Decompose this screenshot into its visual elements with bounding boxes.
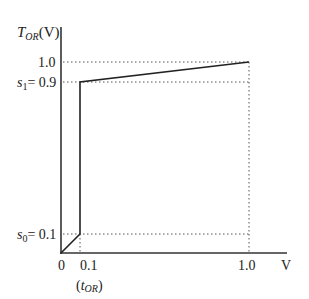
y-tick-1-0: 1.0 [38, 55, 56, 70]
guide-lines [63, 62, 249, 252]
t-or-annotation: (tOR) [76, 278, 103, 294]
x-tick-0-1: 0.1 [80, 258, 98, 273]
y-tick-s0: s0= 0.1 [17, 227, 56, 244]
x-tick-0: 0 [58, 258, 65, 273]
y-axis-title: TOR(V) [17, 24, 60, 42]
transfer-diagram: TOR(V) 1.0 s1= 0.9 s0= 0.1 0 0.1 1.0 V (… [0, 0, 309, 299]
transfer-curve [61, 62, 249, 253]
x-axis-title: V [281, 258, 291, 273]
x-tick-1-0: 1.0 [238, 258, 256, 273]
y-tick-s1: s1= 0.9 [17, 75, 56, 92]
